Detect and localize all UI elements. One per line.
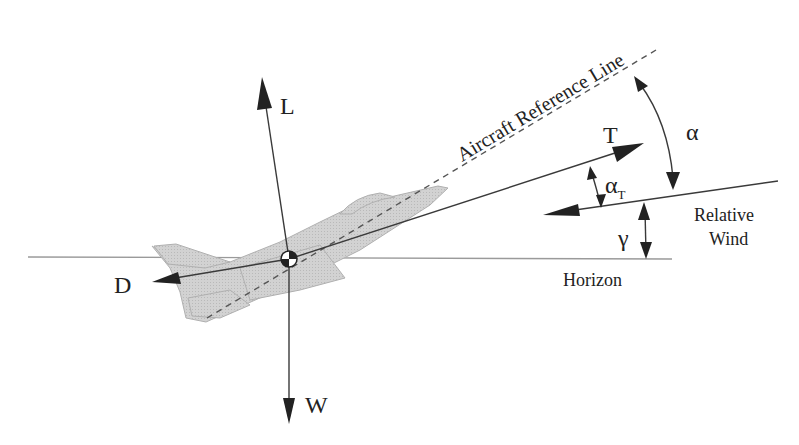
relative-wind-label-line2: Wind: [709, 229, 748, 249]
alpha-t-symbol: α: [605, 172, 618, 198]
drag-arrowhead: [152, 272, 181, 284]
weight-arrowhead: [283, 398, 295, 424]
relative-wind-arrowhead: [543, 204, 580, 216]
reference-line-label: Aircraft Reference Line: [453, 48, 628, 165]
lift-label: L: [280, 93, 295, 119]
alpha-label: α: [686, 119, 699, 145]
lift-vector: [265, 100, 289, 259]
alpha-arc-arrowhead-top: [634, 76, 648, 92]
thrust-label: T: [603, 122, 618, 148]
alpha-t-arrowhead-top: [587, 166, 597, 180]
alpha-t-label: αT: [605, 172, 626, 202]
horizon-label: Horizon: [563, 270, 622, 290]
alpha-arc-arrowhead-bottom: [666, 172, 680, 190]
alpha-t-subscript: T: [618, 187, 626, 202]
gamma-arrowhead-bottom: [640, 242, 652, 259]
drag-label: D: [114, 272, 131, 298]
gamma-arrowhead-top: [638, 202, 650, 220]
center-of-gravity-icon: [281, 251, 297, 267]
aircraft-silhouette: [152, 186, 448, 322]
relative-wind-label-line1: Relative: [694, 205, 754, 225]
alpha-arc: [640, 84, 673, 178]
lift-arrowhead: [257, 77, 272, 110]
horizon-line: [28, 257, 672, 259]
gamma-label: γ: [617, 225, 629, 251]
thrust-vector: [289, 153, 615, 259]
aircraft-forces-diagram: L W D T Aircraft Reference Line α αT γ R…: [0, 0, 799, 445]
weight-label: W: [305, 392, 328, 418]
